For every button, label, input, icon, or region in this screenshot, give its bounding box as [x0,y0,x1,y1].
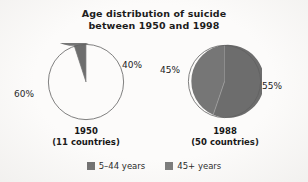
legend-label-45-plus: 45+ years [177,161,221,171]
pie-1950-caption-countries: (11 countries) [26,137,146,148]
chart-title-line1: Age distribution of suicide [82,8,227,19]
pie-1950-label-40: 40% [122,60,142,70]
chart-title: Age distribution of suicide between 1950… [0,8,308,32]
pie-1988-caption-year: 1988 [213,126,237,136]
pie-1950-caption-year: 1950 [74,126,98,136]
pie-1950-caption: 1950 (11 countries) [26,126,146,148]
legend-swatch-45-plus-icon [165,162,173,170]
legend-swatch-5-44-icon [87,162,95,170]
pie-chart-1988 [187,44,262,119]
figure-container: Age distribution of suicide between 1950… [0,0,308,182]
pie-chart-1950 [47,43,125,121]
pie-1950-svg [47,43,125,121]
pie-1988-label-55: 55% [262,81,282,91]
chart-legend: 5–44 years 45+ years [0,161,308,171]
pie-1988-caption-countries: (50 countries) [165,137,285,148]
pie-1988-caption: 1988 (50 countries) [165,126,285,148]
chart-title-line2: between 1950 and 1998 [0,20,308,32]
pie-1988-label-45: 45% [160,65,180,75]
legend-item-45-plus: 45+ years [165,161,221,171]
pie-1950-label-60: 60% [14,89,34,99]
legend-label-5-44: 5–44 years [99,161,146,171]
legend-item-5-44: 5–44 years [87,161,146,171]
pie-1988-svg [187,44,262,119]
